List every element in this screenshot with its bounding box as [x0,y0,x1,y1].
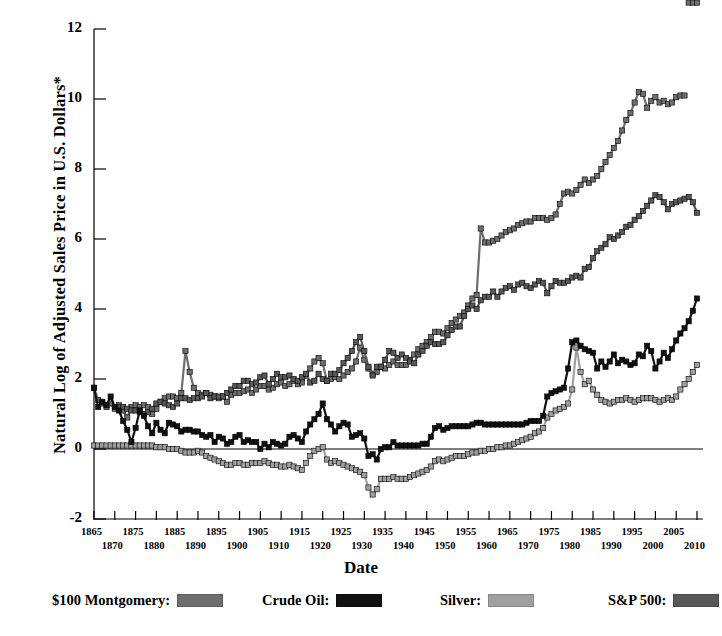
series-marker [108,394,113,399]
series-marker [653,366,658,371]
series-marker [628,110,633,115]
series-marker [358,431,363,436]
series-marker [690,200,695,205]
series-marker [141,413,146,418]
series-marker [349,348,354,353]
series-marker [150,406,155,411]
series-marker [320,401,325,406]
legend-item-sp500[interactable]: S&P 500: [608,592,719,609]
series-marker [674,338,679,343]
x-tick-label: 1890 [185,540,206,551]
series-marker [557,201,562,206]
series-marker [362,436,367,441]
series-marker [175,401,180,406]
chart-figure: Natural Log of Adjusted Sales Price in U… [0,0,722,636]
series-marker [299,467,304,472]
series-marker [320,361,325,366]
series-marker [620,229,625,234]
y-tick-label: 2 [52,369,82,386]
series-marker [266,382,271,387]
series-marker [353,340,358,345]
series-marker [121,418,126,423]
series-marker [337,368,342,373]
series-marker [308,366,313,371]
x-tick-label: 1940 [393,540,414,551]
series-marker [254,380,259,385]
series-marker [324,417,329,422]
series-marker [694,210,699,215]
series-marker [590,350,595,355]
series-marker [690,369,695,374]
series-marker [686,376,691,381]
series-marker [682,326,687,331]
series-marker [645,203,650,208]
series-marker [590,256,595,261]
series-marker [536,418,541,423]
legend-item-crude-oil[interactable]: Crude Oil: [262,592,382,609]
series-marker [303,371,308,376]
series-marker [669,347,674,352]
series-marker [541,413,546,418]
series-marker [208,432,213,437]
x-tick-label: 1895 [206,526,227,537]
y-tick-label: 12 [52,19,82,36]
series-marker [133,425,138,430]
x-tick-label: 1960 [476,540,497,551]
series-marker [283,441,288,446]
legend-label: S&P 500: [608,592,666,609]
series-marker [578,182,583,187]
x-tick-label: 1985 [580,526,601,537]
series-marker [607,359,612,364]
series-marker [620,128,625,133]
series-marker [441,340,446,345]
series-marker [258,446,263,451]
series-marker [420,348,425,353]
series-marker [362,473,367,478]
series-marker [595,392,600,397]
series-marker [511,287,516,292]
series-marker [96,404,101,409]
x-tick-label: 1920 [310,540,331,551]
series-marker [316,371,321,376]
x-tick-label: 1990 [601,540,622,551]
series-marker [665,355,670,360]
x-tick-label: 1935 [372,526,393,537]
series-marker [345,355,350,360]
series-marker [237,432,242,437]
x-tick-label: 1950 [434,540,455,551]
x-tick-label: 1975 [538,526,559,537]
series-marker [565,401,570,406]
series-marker [590,387,595,392]
series-marker [603,159,608,164]
series-marker [428,334,433,339]
series-marker [224,399,229,404]
series-marker [694,362,699,367]
series-marker [686,194,691,199]
series-marker [387,445,392,450]
x-tick-label: 1900 [227,540,248,551]
series-marker [125,427,130,432]
series-line [94,299,697,460]
chart-legend: $100 Montgomery:Crude Oil:Silver:S&P 500… [0,592,722,622]
series-marker [661,350,666,355]
series-marker [262,373,267,378]
series-marker [640,91,645,96]
series-marker [179,390,184,395]
x-tick-label: 1925 [331,526,352,537]
series-marker [578,369,583,374]
series-marker [324,378,329,383]
x-tick-label: 2005 [663,526,684,537]
series-marker [574,338,579,343]
x-tick-label: 1970 [518,540,539,551]
series-marker [599,359,604,364]
series-marker [486,294,491,299]
series-marker [341,361,346,366]
series-marker [374,457,379,462]
y-tick-label: 10 [52,89,82,106]
series-marker [657,194,662,199]
legend-item-montgomery[interactable]: $100 Montgomery: [52,592,223,609]
series-marker [682,382,687,387]
legend-item-silver[interactable]: Silver: [440,592,534,609]
series-marker [599,166,604,171]
series-marker [370,492,375,497]
